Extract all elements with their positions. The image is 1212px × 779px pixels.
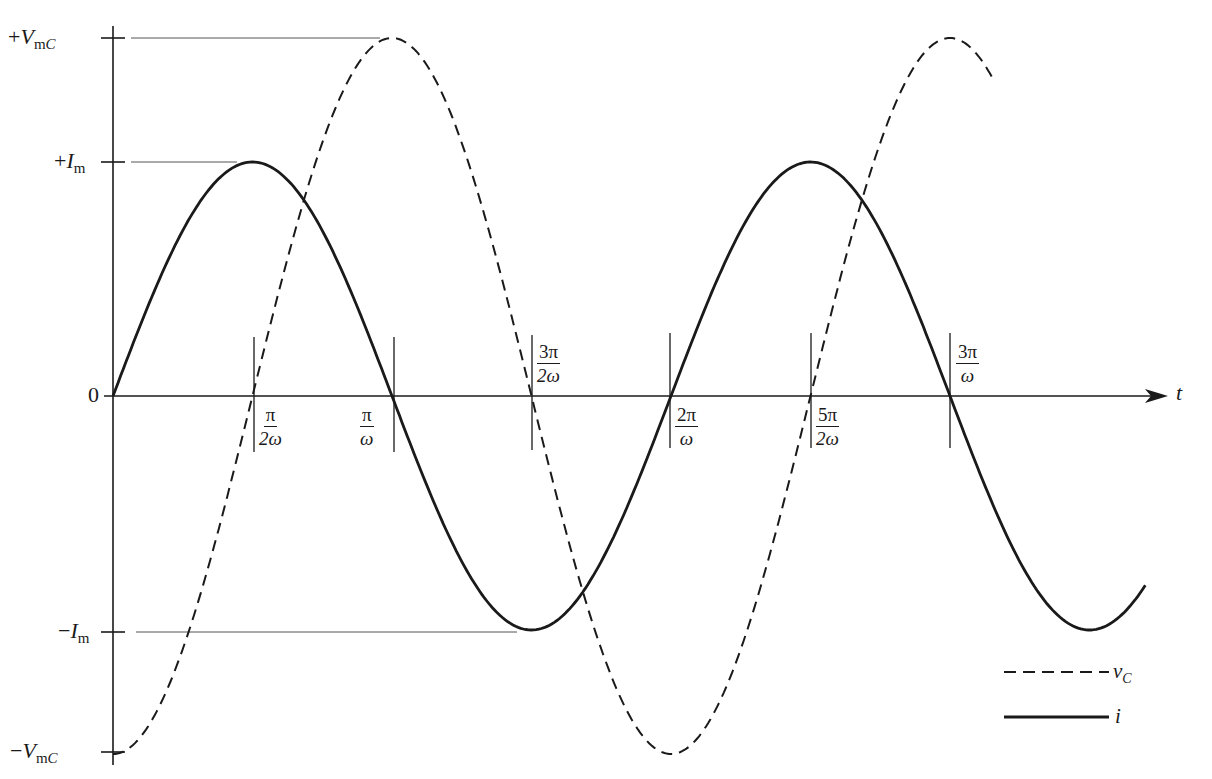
y-label-neg-im: −Im [58,620,89,646]
symbol: V [22,738,35,763]
legend-i-label: i [1115,704,1121,729]
denominator: 2ω [816,427,839,448]
x-tick-label-pi-over-w: π ω [360,405,374,448]
x-tick-label-3pi-over-w: 3π ω [956,342,979,385]
subscript-c: C [46,36,56,52]
denominator: ω [961,364,974,385]
numerator: π [264,405,278,427]
subscript-c: C [48,750,58,766]
guide-lines [131,38,517,632]
legend-vc-symbol: v [1113,659,1122,683]
sign: − [10,738,22,763]
denominator: ω [680,427,693,448]
x-tick-label-pi-over-2w: π 2ω [259,405,282,448]
subscript-m: m [78,630,90,646]
numerator: π [360,405,374,427]
denominator: 2ω [259,427,282,448]
symbol: I [70,618,77,643]
legend-i-symbol: i [1115,704,1121,728]
numerator: 3π [956,342,979,364]
t-symbol: t [1176,380,1182,405]
subscript-m: m [34,36,46,52]
y-label-neg-vmc: −VmC [10,740,58,766]
x-tick-label-3pi-over-2w: 3π 2ω [537,342,560,385]
legend-vc-label: vC [1113,659,1132,687]
sign: − [58,618,70,643]
denominator: 2ω [537,364,560,385]
numerator: 3π [537,342,560,364]
symbol: V [20,24,33,49]
y-label-zero: 0 [88,384,99,406]
numerator: 5π [816,405,839,427]
x-tick-label-2pi-over-w: 2π ω [675,405,698,448]
numerator: 2π [675,405,698,427]
subscript-m: m [74,160,86,176]
sign: + [54,148,66,173]
sign: + [8,24,20,49]
denominator: ω [360,427,373,448]
x-tick-label-5pi-over-2w: 5π 2ω [816,405,839,448]
legend-vc-subscript: C [1122,671,1131,686]
subscript-m: m [36,750,48,766]
x-tick-lines [254,333,950,452]
y-label-pos-im: +Im [54,150,85,176]
t-axis-label: t [1176,382,1182,404]
y-label-pos-vmc: +VmC [8,26,56,52]
symbol: I [66,148,73,173]
chart-plot-area [0,0,1212,779]
